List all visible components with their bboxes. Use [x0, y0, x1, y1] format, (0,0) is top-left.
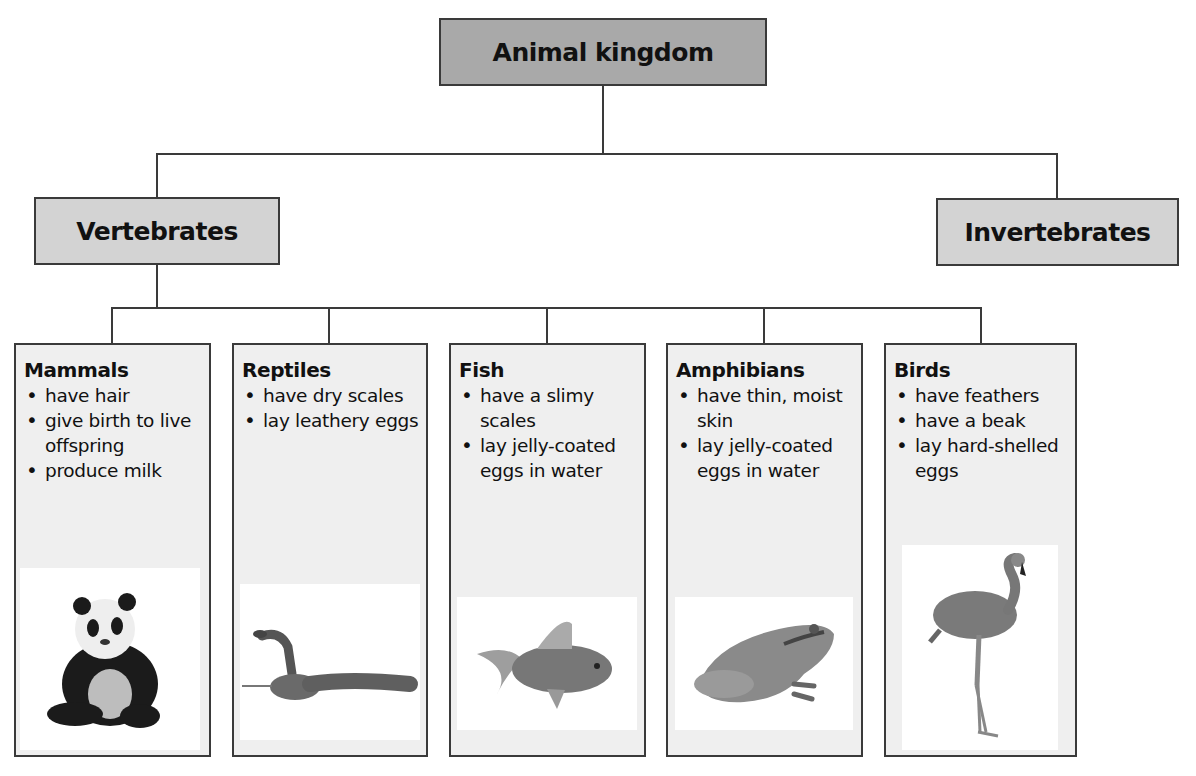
connector-root-down — [602, 85, 604, 155]
snake-icon — [240, 612, 420, 712]
connector-vertebrates-up — [156, 153, 158, 198]
branch-node-label: Invertebrates — [965, 218, 1151, 247]
trait-item: lay jelly-coated eggs in water — [676, 433, 861, 483]
frog-photo — [675, 597, 853, 730]
group-title: Reptiles — [242, 358, 426, 383]
frog-icon — [684, 614, 844, 714]
trait-item: produce milk — [24, 458, 209, 483]
trait-item: have feathers — [894, 383, 1075, 408]
trait-list: have a slimy scales lay jelly-coated egg… — [459, 383, 644, 483]
branch-node-vertebrates: Vertebrates — [34, 197, 280, 265]
trait-list: have hair give birth to live offspring p… — [24, 383, 209, 483]
trait-item: lay hard-shelled eggs — [894, 433, 1075, 483]
group-title: Birds — [894, 358, 1075, 383]
trait-item: have a beak — [894, 408, 1075, 433]
connector-birds — [980, 307, 982, 344]
branch-node-invertebrates: Invertebrates — [936, 198, 1179, 266]
trait-item: have a slimy scales — [459, 383, 644, 433]
branch-node-label: Vertebrates — [76, 217, 238, 246]
group-title: Mammals — [24, 358, 209, 383]
snake-photo — [240, 584, 420, 740]
panda-icon — [45, 584, 175, 734]
group-title: Amphibians — [676, 358, 861, 383]
panda-photo — [20, 568, 200, 750]
group-title: Fish — [459, 358, 644, 383]
trait-item: have dry scales — [242, 383, 426, 408]
connector-vertebrates-down — [156, 264, 158, 309]
connector-reptiles — [328, 307, 330, 344]
flamingo-icon — [920, 550, 1040, 745]
connector-fish — [546, 307, 548, 344]
connector-branch-bar — [156, 153, 1058, 155]
trait-item: have hair — [24, 383, 209, 408]
trait-list: have feathers have a beak lay hard-shell… — [894, 383, 1075, 483]
trait-item: give birth to live offspring — [24, 408, 209, 458]
trait-item: lay jelly-coated eggs in water — [459, 433, 644, 483]
root-node-animal-kingdom: Animal kingdom — [439, 18, 767, 86]
goldfish-photo — [457, 597, 637, 730]
trait-list: have dry scales lay leathery eggs — [242, 383, 426, 433]
connector-mammals — [111, 307, 113, 344]
trait-item: have thin, moist skin — [676, 383, 861, 433]
connector-amphibians — [763, 307, 765, 344]
root-node-label: Animal kingdom — [493, 38, 714, 67]
trait-list: have thin, moist skin lay jelly-coated e… — [676, 383, 861, 483]
flamingo-photo — [902, 545, 1058, 750]
connector-invertebrates-up — [1056, 153, 1058, 199]
trait-item: lay leathery eggs — [242, 408, 426, 433]
goldfish-icon — [467, 614, 627, 714]
